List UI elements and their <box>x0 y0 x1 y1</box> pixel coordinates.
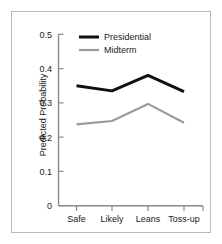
chart-figure: Predicted Probability 0 0.1 0.2 0.3 0.4 … <box>0 0 222 244</box>
y-tick-label-4: 0.4 <box>26 64 52 74</box>
x-tick-label-likely: Likely <box>100 214 123 224</box>
x-tick-label-tossup: Toss-up <box>168 214 200 224</box>
y-axis-ticks <box>59 34 64 205</box>
legend-label-midterm: Midterm <box>104 45 137 55</box>
y-tick-label-1: 0.1 <box>26 167 52 177</box>
y-tick-label-2: 0.2 <box>26 133 52 143</box>
legend-label-presidential: Presidential <box>104 32 151 42</box>
x-tick-label-safe: Safe <box>67 214 86 224</box>
series-line-midterm <box>77 104 185 125</box>
y-tick-label-5: 0.5 <box>26 30 52 40</box>
y-tick-label-3: 0.3 <box>26 98 52 108</box>
x-tick-label-leans: Leans <box>136 214 161 224</box>
x-axis-ticks <box>77 206 204 211</box>
series-line-presidential <box>77 75 185 91</box>
y-tick-label-0: 0 <box>26 201 52 211</box>
